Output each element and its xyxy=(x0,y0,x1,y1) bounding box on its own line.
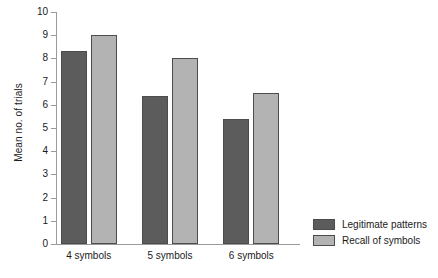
y-tick-label: 3 xyxy=(42,169,48,179)
y-tick-label: 7 xyxy=(42,77,48,87)
y-tick-label: 1 xyxy=(42,216,48,226)
legend-label: Legitimate patterns xyxy=(342,220,427,230)
legend-swatch xyxy=(313,219,335,230)
y-tick-label: 8 xyxy=(42,53,48,63)
bar-chart: Mean no. of trials 109876543210 4 symbol… xyxy=(0,0,438,278)
y-tick-label: 10 xyxy=(37,7,48,17)
bar xyxy=(91,35,117,244)
chart-legend: Legitimate patternsRecall of symbols xyxy=(313,219,427,246)
x-tick-label: 4 symbols xyxy=(66,250,111,261)
legend-label: Recall of symbols xyxy=(342,236,420,246)
x-tick-label: 6 symbols xyxy=(229,250,274,261)
bar xyxy=(253,93,279,244)
plot-area: 109876543210 xyxy=(56,12,300,245)
bar xyxy=(172,58,198,244)
y-tick-label: 9 xyxy=(42,30,48,40)
bar xyxy=(142,96,168,244)
y-axis-title: Mean no. of trials xyxy=(6,0,30,245)
x-tick-label: 5 symbols xyxy=(147,250,192,261)
bar xyxy=(223,119,249,244)
y-axis-title-text: Mean no. of trials xyxy=(13,83,24,162)
y-tick-label: 6 xyxy=(42,100,48,110)
legend-swatch xyxy=(313,235,335,246)
y-tick-label: 0 xyxy=(42,239,48,249)
y-tick-label: 5 xyxy=(42,123,48,133)
bars-layer xyxy=(56,12,300,245)
y-tick-label: 2 xyxy=(42,193,48,203)
y-tick-label: 4 xyxy=(42,146,48,156)
bar xyxy=(61,51,87,244)
legend-item: Recall of symbols xyxy=(313,235,427,246)
legend-item: Legitimate patterns xyxy=(313,219,427,230)
